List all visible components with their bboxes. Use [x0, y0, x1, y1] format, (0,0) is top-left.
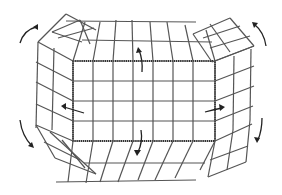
arrow-top-left [20, 24, 38, 43]
arrow-bottom-left [20, 120, 34, 148]
arrow-bottom-right [254, 118, 262, 143]
bottom-left-flap [36, 125, 96, 174]
arrow-center-bottom [134, 130, 142, 156]
base-panel [73, 61, 215, 141]
top-right-flap [193, 18, 254, 62]
right-panel [215, 46, 254, 141]
bottom-right-flap [208, 120, 250, 177]
gabion-diagram [0, 0, 282, 195]
gabion-illustration [0, 0, 282, 195]
left-panel [36, 42, 73, 141]
arrow-center-top [136, 47, 142, 72]
arrow-top-right [252, 22, 266, 46]
